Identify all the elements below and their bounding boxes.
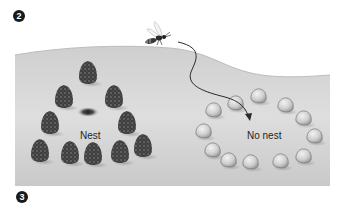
diagram-canvas [0,0,343,204]
step-marker-3: 3 [16,191,28,203]
wasp-experiment-diagram: 2 3 Nest No nest [0,0,343,204]
step-marker-2: 2 [13,10,25,22]
wasp-icon [145,21,171,45]
nest-label: Nest [80,130,101,141]
no-nest-label: No nest [247,130,281,141]
nest-hole [77,107,99,117]
